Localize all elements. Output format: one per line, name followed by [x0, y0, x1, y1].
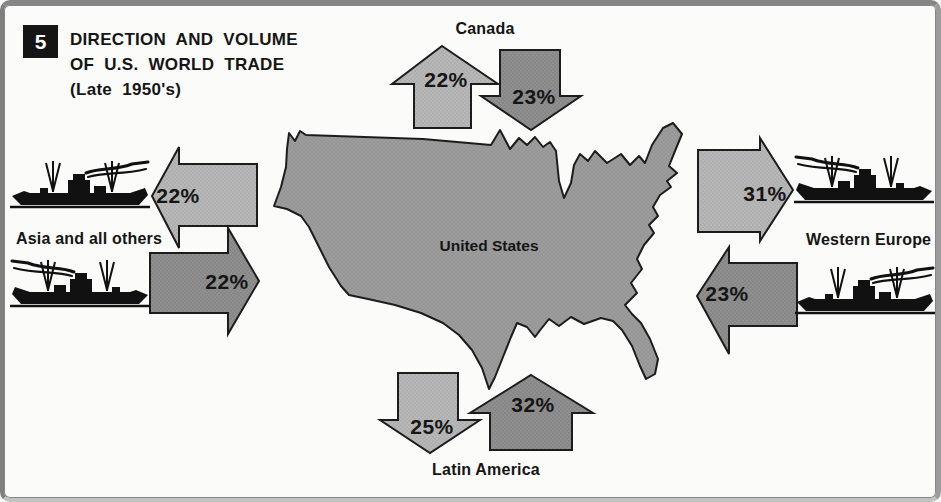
figure-title: DIRECTION AND VOLUME OF U.S. WORLD TRADE… — [70, 27, 298, 102]
latin-america-outbound-arrow — [380, 373, 480, 453]
figure-number-badge: 5 — [23, 25, 58, 58]
cargo-ship-icon-right-upper — [794, 156, 934, 202]
latin-america-label: Latin America — [406, 461, 566, 479]
canada-label: Canada — [425, 20, 545, 38]
title-line-1: DIRECTION AND VOLUME — [70, 27, 298, 52]
cargo-ship-icon-right-lower — [795, 267, 935, 313]
asia-outbound-value: 22% — [146, 184, 210, 208]
title-line-3: (Late 1950's) — [70, 77, 298, 102]
asia-label: Asia and all others — [16, 230, 176, 248]
western-europe-inbound-value: 23% — [695, 282, 759, 306]
latin-america-outbound-value: 25% — [400, 415, 464, 439]
canada-outbound-value: 22% — [414, 68, 478, 92]
latin-america-inbound-value: 32% — [501, 393, 565, 417]
cargo-ship-icon-left-lower — [10, 260, 150, 306]
western-europe-outbound-value: 31% — [733, 182, 797, 206]
figure-canvas: 5 DIRECTION AND VOLUME OF U.S. WORLD TRA… — [0, 0, 941, 502]
united-states-label: United States — [409, 237, 569, 254]
us-map — [274, 123, 682, 389]
asia-inbound-value: 22% — [195, 270, 259, 294]
western-europe-label: Western Europe — [806, 231, 936, 249]
canada-inbound-value: 23% — [502, 85, 566, 109]
cargo-ship-icon-left-upper — [10, 161, 150, 207]
title-line-2: OF U.S. WORLD TRADE — [70, 52, 298, 77]
figure-number: 5 — [35, 30, 47, 54]
